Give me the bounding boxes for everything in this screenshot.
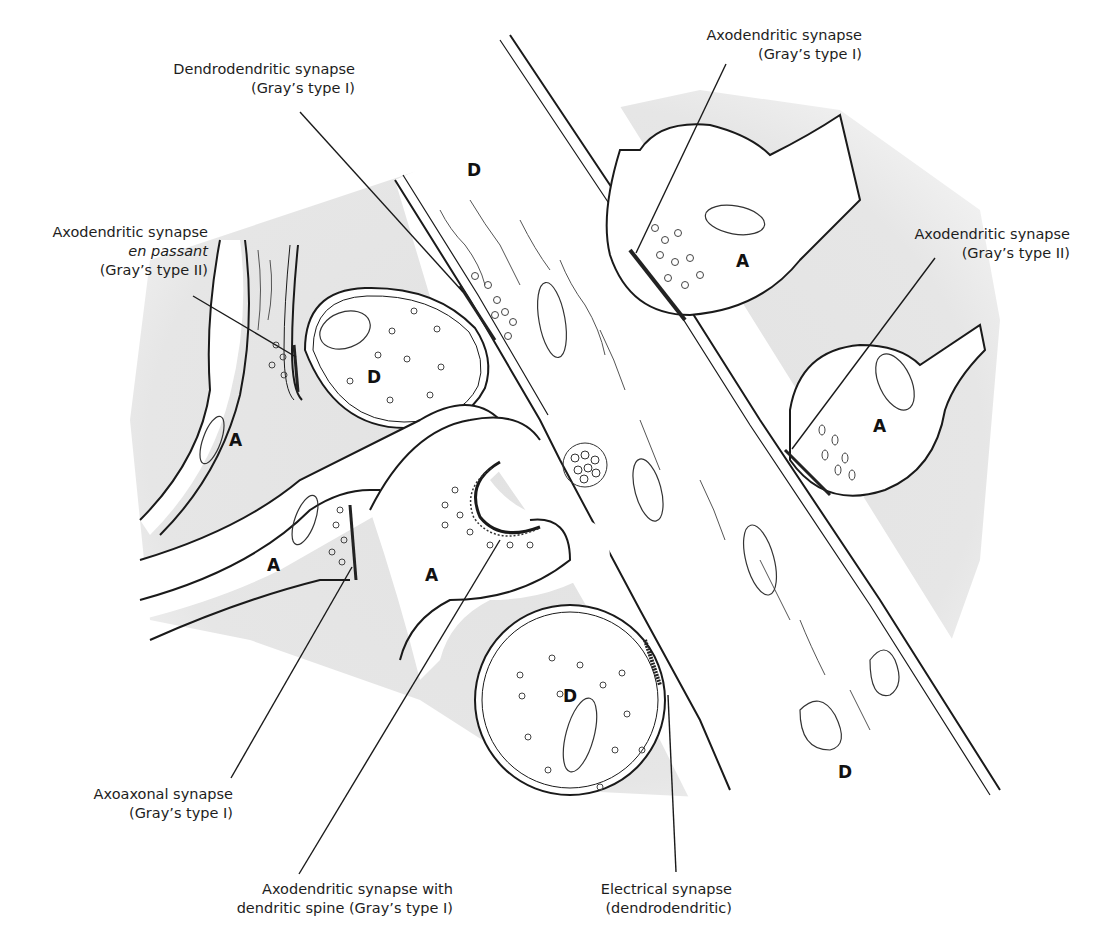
label-line: Axodendritic synapse [0,223,208,242]
label-axodendritic-synapse-type1: Axodendritic synapse (Gray’s type I) [640,26,862,64]
label-line: (Gray’s type II) [860,244,1070,263]
label-line: Axodendritic synapse with [190,880,453,899]
label-line: (Gray’s type II) [0,261,208,280]
region-marker-d-left-bouton: D [367,367,381,387]
label-dendrodendritic-synapse: Dendrodendritic synapse (Gray’s type I) [133,60,355,98]
region-marker-d-lower-bouton: D [563,686,577,706]
region-marker-a-top-right: A [736,251,749,271]
label-line: (Gray’s type I) [133,79,355,98]
label-line: (dendrodendritic) [580,899,732,918]
label-axodendritic-synapse-type2: Axodendritic synapse (Gray’s type II) [860,225,1070,263]
label-line: Dendrodendritic synapse [133,60,355,79]
label-electrical-synapse: Electrical synapse (dendrodendritic) [580,880,732,918]
region-marker-d-bottom-right: D [838,762,852,782]
label-line: Axoaxonal synapse [40,785,233,804]
region-marker-a-left: A [229,430,242,450]
region-marker-d-top: D [467,160,481,180]
region-marker-a-lower-left: A [267,555,280,575]
region-marker-a-right: A [873,416,886,436]
label-line-italic: en passant [0,242,208,261]
label-line: Axodendritic synapse [640,26,862,45]
label-axodendritic-spine-synapse: Axodendritic synapse with dendritic spin… [190,880,453,918]
label-line: Electrical synapse [580,880,732,899]
region-marker-a-center: A [425,565,438,585]
label-line: (Gray’s type I) [640,45,862,64]
label-line: (Gray’s type I) [40,804,233,823]
label-axoaxonal-synapse: Axoaxonal synapse (Gray’s type I) [40,785,233,823]
label-line: dendritic spine (Gray’s type I) [190,899,453,918]
label-axodendritic-en-passant: Axodendritic synapse en passant (Gray’s … [0,223,208,280]
label-line: Axodendritic synapse [860,225,1070,244]
